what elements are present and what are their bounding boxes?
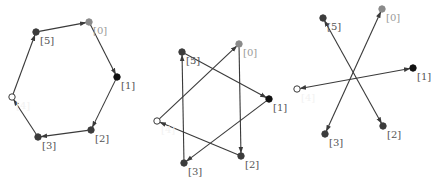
- node-2-label: [2]: [95, 133, 109, 144]
- edge-1-3: [187, 101, 267, 161]
- edge-1-2: [92, 80, 115, 127]
- diagram-hexagon: [0][1][2][3][4][5]: [9, 19, 135, 151]
- edge-2-3: [41, 130, 88, 136]
- node-4-label: [4]: [161, 124, 175, 135]
- node-0-marker: [379, 6, 385, 12]
- node-4-label: [4]: [301, 92, 315, 103]
- node-3-marker: [181, 160, 187, 166]
- node-2-label: [2]: [245, 159, 259, 170]
- node-3-marker: [35, 134, 41, 140]
- diagram-asterisk: [0][1][2][3][4][5]: [294, 6, 431, 148]
- edge-4-5: [13, 35, 35, 94]
- node-4-label: [4]: [16, 100, 30, 111]
- node-0-label: [0]: [243, 47, 257, 58]
- node-5-marker: [320, 15, 326, 21]
- edge-2-5: [325, 21, 382, 123]
- node-4-marker: [154, 118, 160, 124]
- edge-3-5: [182, 55, 184, 160]
- diagram-star: [0][1][2][3][4][5]: [154, 41, 287, 177]
- node-1-label: [1]: [121, 80, 135, 91]
- edge-0-2: [239, 47, 241, 153]
- node-1-marker: [266, 96, 272, 102]
- node-2-marker: [238, 153, 244, 159]
- node-1-label: [1]: [273, 102, 287, 113]
- node-3-marker: [322, 131, 328, 137]
- node-0-marker: [86, 19, 92, 25]
- edge-5-0: [39, 23, 86, 32]
- node-0-label: [0]: [386, 12, 400, 23]
- node-3-label: [3]: [188, 166, 202, 177]
- node-3-label: [3]: [42, 140, 56, 151]
- node-0-label: [0]: [93, 25, 107, 36]
- edge-1-4: [300, 69, 410, 89]
- node-3-label: [3]: [329, 137, 343, 148]
- node-2-marker: [380, 123, 386, 129]
- node-5-label: [5]: [327, 21, 341, 32]
- node-0-marker: [236, 41, 242, 47]
- node-4-marker: [9, 94, 15, 100]
- node-5-marker: [179, 49, 185, 55]
- node-4-marker: [294, 86, 300, 92]
- node-1-marker: [410, 65, 416, 71]
- node-5-label: [5]: [186, 55, 200, 66]
- node-5-marker: [33, 29, 39, 35]
- node-2-marker: [88, 127, 94, 133]
- graph-canvas: [0][1][2][3][4][5] [0][1][2][3][4][5] [0…: [0, 0, 437, 181]
- node-1-marker: [114, 74, 120, 80]
- node-2-label: [2]: [387, 129, 401, 140]
- node-1-label: [1]: [417, 71, 431, 82]
- node-5-label: [5]: [40, 35, 54, 46]
